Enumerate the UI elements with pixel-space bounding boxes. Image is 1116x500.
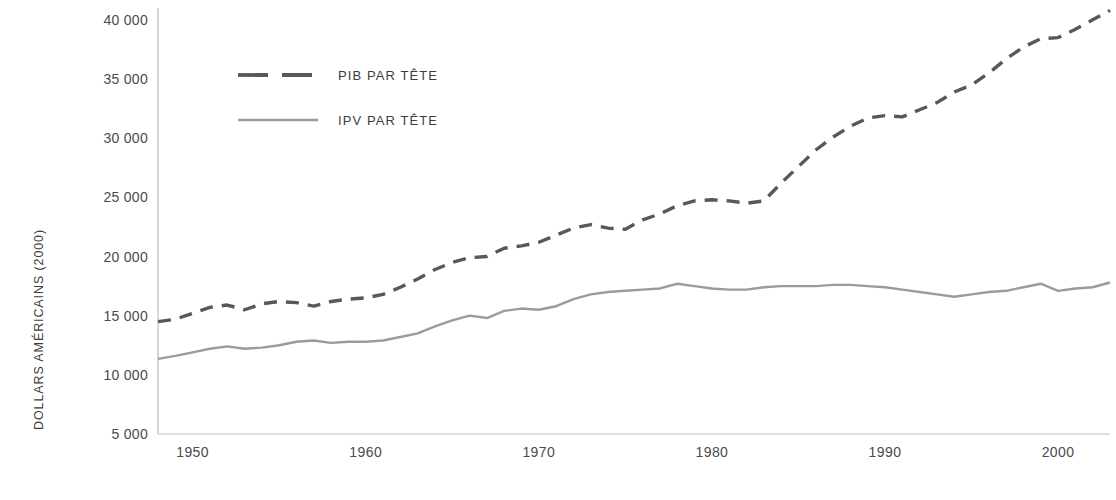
series-layer [158,10,1110,358]
series-line-pib [158,10,1110,321]
axis-lines [158,8,1110,434]
plot-area [0,0,1116,500]
chart-container: DOLLARS AMÉRICAINS (2000) 5 00010 00015 … [0,0,1116,500]
series-line-ipv [158,283,1110,359]
legend-swatches [238,75,318,120]
